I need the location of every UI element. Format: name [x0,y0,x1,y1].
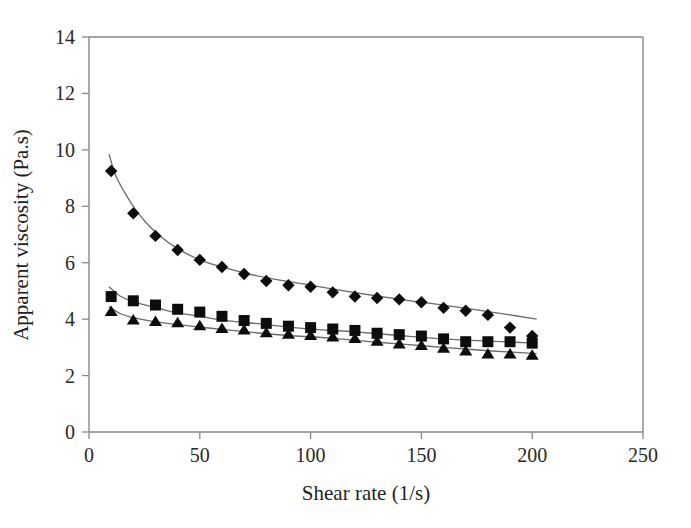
data-point-square [106,291,117,302]
x-axis-ticks: 050100150200250 [84,432,658,466]
series-diamond [105,165,538,342]
data-point-triangle [504,348,517,359]
y-tick-label: 6 [65,252,75,274]
y-tick-label: 8 [65,195,75,217]
x-tick-label: 0 [84,444,94,466]
y-tick-label: 2 [65,365,75,387]
data-point-square [527,338,538,349]
data-point-square [505,336,516,347]
data-point-triangle [215,323,228,334]
y-tick-label: 14 [55,26,75,48]
fit-square [109,287,537,343]
figure-container: 050100150200250 02468101214 Shear rate (… [0,0,691,528]
data-point-diamond [304,280,316,292]
x-tick-label: 200 [517,444,547,466]
y-tick-label: 12 [55,82,75,104]
x-tick-label: 150 [406,444,436,466]
data-markers-layer [105,165,539,360]
y-tick-label: 4 [65,308,75,330]
data-point-triangle [171,317,184,328]
series-triangle [105,306,539,360]
data-point-diamond [393,293,405,305]
x-tick-label: 100 [296,444,326,466]
fitted-curves-layer [109,154,537,353]
data-point-square [482,336,493,347]
data-point-square [172,304,183,315]
data-point-triangle [526,349,539,360]
data-point-triangle [481,348,494,359]
data-point-square [194,307,205,318]
data-point-diamond [437,302,449,314]
data-point-square [216,311,227,322]
data-point-square [128,295,139,306]
x-tick-label: 50 [190,444,210,466]
data-point-diamond [371,292,383,304]
x-tick-label: 250 [628,444,658,466]
y-tick-label: 10 [55,139,75,161]
x-axis-title: Shear rate (1/s) [302,481,430,505]
data-point-diamond [504,321,516,333]
data-point-diamond [149,230,161,242]
y-tick-label: 0 [65,421,75,443]
data-point-diamond [238,268,250,280]
plot-frame [89,37,643,432]
viscosity-shear-rate-chart: 050100150200250 02468101214 Shear rate (… [0,0,691,528]
y-axis-ticks: 02468101214 [55,26,89,443]
data-point-diamond [127,207,139,219]
data-point-diamond [460,304,472,316]
data-point-diamond [194,254,206,266]
data-point-diamond [216,261,228,273]
y-axis-title: Apparent viscosity (Pa.s) [9,129,33,341]
fit-diamond [109,154,537,319]
data-point-diamond [415,296,427,308]
data-point-square [150,300,161,311]
data-point-triangle [193,320,206,331]
